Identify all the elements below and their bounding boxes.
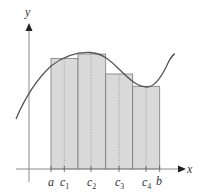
x-axis-arrow-icon xyxy=(178,166,186,173)
rectangle-2 xyxy=(78,54,106,169)
riemann-rectangles xyxy=(51,54,160,169)
tick-label-c4: c4 xyxy=(142,176,151,191)
tick-label-c3: c3 xyxy=(115,176,124,191)
x-axis-label: x xyxy=(187,163,192,175)
tick-label-c2: c2 xyxy=(87,176,96,191)
y-axis-arrow-icon xyxy=(26,23,33,31)
riemann-sum-figure xyxy=(0,0,207,194)
tick-label-c1: c1 xyxy=(60,176,69,191)
y-axis-label: y xyxy=(25,6,30,18)
tick-label-b: b xyxy=(156,175,162,187)
tick-label-a: a xyxy=(48,176,54,188)
